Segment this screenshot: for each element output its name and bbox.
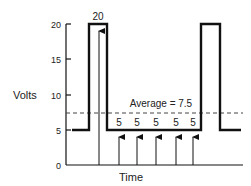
sample-label-3: 5: [153, 117, 159, 128]
average-label: Average = 7.5: [130, 98, 193, 109]
y-tick-10: 10: [51, 91, 61, 101]
sample-label-1: 5: [116, 117, 122, 128]
y-tick-0: 0: [56, 161, 61, 171]
y-tick-labels: 0 5 10 15 20: [51, 20, 61, 171]
y-tick-15: 15: [51, 55, 61, 65]
pulse-waveform-diagram: 0 5 10 15 20 Volts Time Average = 7.5 20…: [0, 0, 251, 186]
sample-label-4: 5: [173, 117, 179, 128]
waveform-trace: [72, 24, 241, 130]
y-axis-label: Volts: [13, 89, 37, 101]
y-tick-5: 5: [56, 126, 61, 136]
sample-label-2: 5: [134, 117, 140, 128]
y-tick-20: 20: [51, 20, 61, 30]
y-axis: [66, 24, 71, 165]
peak-value-label: 20: [92, 11, 104, 22]
sample-label-5: 5: [190, 117, 196, 128]
sample-value-labels: 5 5 5 5 5: [116, 117, 196, 128]
x-axis-label: Time: [119, 171, 143, 183]
